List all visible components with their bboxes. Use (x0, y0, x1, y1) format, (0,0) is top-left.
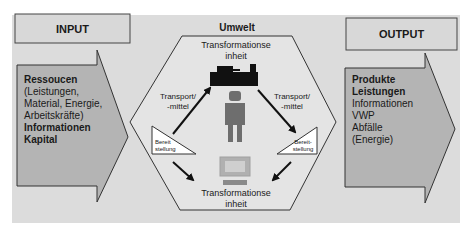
provision-left-line2: stellung (155, 146, 185, 153)
output-line-energie: (Energie) (352, 134, 452, 146)
output-line-leistungen: Leistungen (352, 86, 452, 98)
input-line-arbeitskraefte: Arbeitskräfte) (24, 110, 124, 122)
provision-right-line2: stellung (289, 146, 317, 153)
input-output-diagram: INPUT OUTPUT Umwelt Ressoucen (Leistunge… (0, 0, 470, 235)
top-unit-line2: inheit (190, 51, 282, 62)
provision-right-line1: Bereit- (289, 139, 317, 146)
transport-right-label: Transport/ -mittel (264, 92, 320, 111)
top-unit-label: Transformationse inheit (190, 40, 282, 62)
input-line-informationen: Informationen (24, 122, 124, 134)
output-text-block: Produkte Leistungen Informationen VWP Ab… (352, 74, 452, 146)
input-line-ressourcen: Ressoucen (24, 74, 124, 86)
transport-left-label: Transport/ -mittel (150, 92, 206, 111)
bottom-unit-line2: inheit (190, 199, 282, 210)
provision-left-line1: Bereit (155, 139, 185, 146)
transport-right-line2: -mittel (264, 102, 320, 112)
bottom-unit-line1: Transformationse (190, 188, 282, 199)
computer-icon (220, 157, 250, 185)
output-line-informationen: Informationen (352, 98, 452, 110)
output-line-abfaelle: Abfälle (352, 122, 452, 134)
output-line-vwp: VWP (352, 110, 452, 122)
input-line-kapital: Kapital (24, 134, 124, 146)
transport-left-line2: -mittel (150, 102, 206, 112)
top-unit-line1: Transformationse (190, 40, 282, 51)
output-line-produkte: Produkte (352, 74, 452, 86)
input-line-material: Material, Energie, (24, 98, 124, 110)
input-title: INPUT (15, 14, 130, 43)
transport-right-line1: Transport/ (264, 92, 320, 102)
transport-left-line1: Transport/ (150, 92, 206, 102)
input-line-leistungen: (Leistungen, (24, 86, 124, 98)
output-title: OUTPUT (346, 18, 457, 50)
provision-left-label: Bereit stellung (155, 139, 185, 153)
input-text-block: Ressoucen (Leistungen, Material, Energie… (24, 74, 124, 146)
provision-right-label: Bereit- stellung (289, 139, 317, 153)
bottom-unit-label: Transformationse inheit (190, 188, 282, 210)
environment-label: Umwelt (200, 22, 274, 34)
